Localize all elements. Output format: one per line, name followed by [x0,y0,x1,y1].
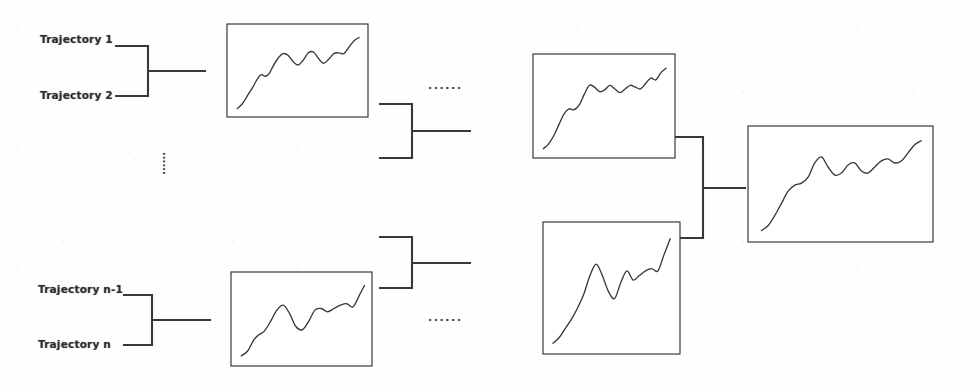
merge-bracket-level1-bottom [124,295,210,345]
trajectory-chart-group-n [231,272,372,366]
chart-frame [533,54,675,158]
merge-bracket-level3-final [672,137,745,238]
chart-frame [227,24,368,117]
merge-bracket-level1-top [120,46,205,96]
vertical-ellipsis-icon: ...... [164,152,169,238]
chart-frame [231,272,372,366]
merge-bracket-level2-bottom [380,237,470,288]
chart-frame [543,222,680,354]
horizontal-ellipsis-top-icon: ...... [428,79,463,92]
final-aggregated-chart [748,126,933,242]
label-leader-lines [116,46,152,345]
label-trajectory-1: Trajectory 1 [40,33,113,45]
merge-bracket-level2-top [380,104,470,158]
chart-frame [748,126,933,242]
merged-chart-bottom [543,222,680,354]
trajectory-charts [227,24,933,366]
label-trajectory-n: Trajectory n [38,338,111,350]
diagram-vector-layer [0,0,980,386]
merged-chart-top [533,54,675,158]
diagram-canvas: Trajectory 1 Trajectory 2 Trajectory n-1… [0,0,980,386]
label-trajectory-2: Trajectory 2 [40,89,113,101]
label-trajectory-n-minus-1: Trajectory n-1 [38,283,123,295]
horizontal-ellipsis-bottom-icon: ...... [428,311,463,324]
trajectory-chart-group-1 [227,24,368,117]
